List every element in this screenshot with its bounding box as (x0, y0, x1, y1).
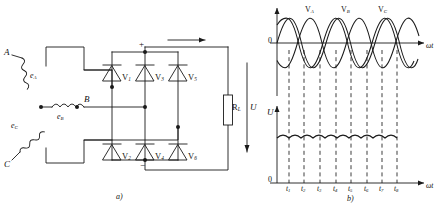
dc-y-axis-arrow (275, 106, 280, 112)
load-resistor-label: RL (232, 103, 241, 112)
ac-origin-label: 0 (268, 37, 272, 45)
figure-root: A C B eA eB eC V1 V3 V5 V2 V4 V6 RL U + … (0, 0, 437, 208)
phase-a-lead (12, 55, 22, 58)
legend-phase-c: VC (378, 6, 387, 15)
legend-phase-a: VA (305, 6, 314, 15)
diode-v6-label: V6 (188, 152, 197, 161)
ac-y-axis-arrow (275, 8, 280, 14)
commutation-guides (289, 50, 397, 183)
dc-tick-label-t8: t8 (394, 185, 398, 193)
coil-c (19, 126, 44, 157)
wire-phase-c (46, 140, 112, 163)
waveform-rectified-output (277, 135, 397, 138)
phase-b-terminal-label: B (84, 95, 90, 104)
panel-b-caption: b) (347, 194, 354, 203)
positive-node (143, 50, 147, 54)
load-voltage-label: U (250, 103, 257, 112)
diode-v5-label: V5 (188, 73, 197, 82)
wire-phase-c-to-col3 (84, 127, 178, 140)
emf-b-label: eB (57, 113, 64, 122)
phase-c-lead (12, 152, 20, 160)
dc-tick-label-t7: t7 (379, 185, 383, 193)
dc-tick-label-t2: t2 (301, 185, 305, 193)
coil-b (52, 104, 84, 107)
current-direction-arrow (168, 38, 205, 43)
dc-tick-label-t1: t1 (286, 185, 290, 193)
wire-phase-a (46, 47, 112, 70)
phase-b-node (75, 105, 79, 109)
circuit-panel (12, 38, 250, 171)
load-bottom-wire (145, 125, 228, 170)
dc-tick-label-t3: t3 (317, 185, 321, 193)
figure-canvas (0, 0, 437, 208)
legend-phase-b: VB (341, 6, 350, 15)
dc-tick-label-t4: t4 (333, 185, 337, 193)
dc-x-axis-arrow (418, 181, 424, 186)
column-2-tap (143, 105, 147, 109)
load-voltage-arrow (245, 63, 250, 152)
emf-a-label: eA (30, 72, 37, 81)
diode-v3-label: V3 (155, 73, 164, 82)
diode-v4-label: V4 (155, 152, 164, 161)
panel-a-caption: a) (116, 192, 123, 201)
diode-v2-label: V2 (122, 152, 131, 161)
positive-terminal-label: + (139, 40, 144, 49)
dc-tick-label-t5: t5 (348, 185, 352, 193)
dc-x-axis-label: ωt (426, 182, 433, 190)
dc-y-axis-label: U (267, 108, 274, 117)
dc-tick-label-t6: t6 (364, 185, 368, 193)
emf-c-label: eC (11, 122, 18, 131)
negative-terminal-label: − (140, 161, 145, 170)
diode-v1-label: V1 (122, 73, 131, 82)
waveform-panel (270, 8, 424, 186)
phase-c-terminal-label: C (4, 160, 10, 169)
phase-a-terminal-label: A (4, 48, 10, 57)
ac-x-axis-label: ωt (426, 42, 433, 50)
ac-x-axis-arrow (418, 41, 424, 46)
dc-origin-label: 0 (268, 176, 272, 184)
